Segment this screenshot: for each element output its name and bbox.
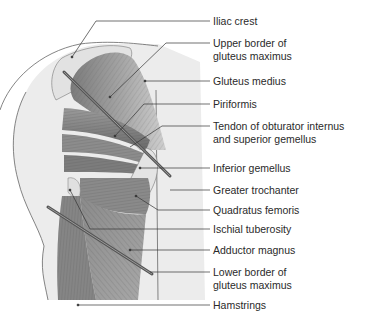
label-adductor-magnus: Adductor magnus xyxy=(213,244,295,257)
label-lower-border-gluteus-maximus: Lower border of gluteus maximus xyxy=(213,266,292,292)
anatomy-illustration xyxy=(0,0,367,320)
label-tendon-obturator-internus: Tendon of obturator internus and superio… xyxy=(213,120,344,146)
label-ischial-tuberosity: Ischial tuberosity xyxy=(213,223,291,236)
label-gluteus-medius: Gluteus medius xyxy=(213,75,286,88)
label-hamstrings: Hamstrings xyxy=(213,299,266,312)
label-iliac-crest: Iliac crest xyxy=(213,15,257,28)
label-piriformis: Piriformis xyxy=(213,98,257,111)
label-greater-trochanter: Greater trochanter xyxy=(213,184,299,197)
label-upper-border-gluteus-maximus: Upper border of gluteus maximus xyxy=(213,37,292,63)
label-inferior-gemellus: Inferior gemellus xyxy=(213,162,291,175)
label-quadratus-femoris: Quadratus femoris xyxy=(213,204,299,217)
